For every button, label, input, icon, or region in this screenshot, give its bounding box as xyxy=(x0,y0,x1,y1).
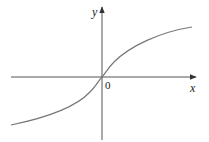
graph-canvas: y x 0 xyxy=(0,0,209,142)
function-graph: y x 0 xyxy=(0,0,209,142)
y-axis-label: y xyxy=(91,5,98,19)
origin-label: 0 xyxy=(105,79,111,91)
x-axis-label: x xyxy=(189,81,196,95)
